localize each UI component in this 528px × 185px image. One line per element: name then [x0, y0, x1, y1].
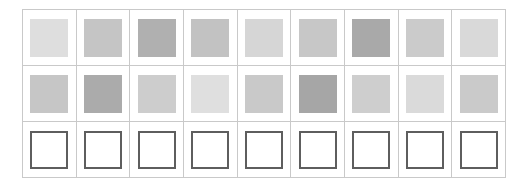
swatch-r2c4[interactable]	[191, 75, 229, 113]
swatch-r2c1[interactable]	[30, 75, 68, 113]
outline-r3c7[interactable]	[352, 131, 390, 169]
grid-cell[interactable]	[23, 122, 77, 178]
grid-cell[interactable]	[237, 66, 291, 122]
grid-cell[interactable]	[130, 66, 184, 122]
grid-cell[interactable]	[23, 66, 77, 122]
swatch-r2c9[interactable]	[460, 75, 498, 113]
row-3-outlined-squares	[23, 122, 506, 178]
grid-cell[interactable]	[183, 66, 237, 122]
grid-cell[interactable]	[130, 122, 184, 178]
outline-r3c2[interactable]	[84, 131, 122, 169]
swatch-r1c3[interactable]	[138, 19, 176, 57]
grid-cell[interactable]	[344, 10, 398, 66]
swatch-r1c5[interactable]	[245, 19, 283, 57]
grid-cell[interactable]	[291, 10, 345, 66]
swatch-grid	[22, 9, 506, 178]
outline-r3c8[interactable]	[406, 131, 444, 169]
grid-cell[interactable]	[183, 122, 237, 178]
grid-cell[interactable]	[452, 122, 506, 178]
outline-r3c6[interactable]	[299, 131, 337, 169]
swatch-r1c8[interactable]	[406, 19, 444, 57]
grid-cell[interactable]	[291, 66, 345, 122]
row-2-gray-swatches	[23, 66, 506, 122]
outline-r3c3[interactable]	[138, 131, 176, 169]
grid-cell[interactable]	[398, 66, 452, 122]
outline-r3c5[interactable]	[245, 131, 283, 169]
grid-cell[interactable]	[76, 10, 130, 66]
grid-cell[interactable]	[398, 10, 452, 66]
grid-cell[interactable]	[76, 66, 130, 122]
row-1-gray-swatches	[23, 10, 506, 66]
swatch-r1c7[interactable]	[352, 19, 390, 57]
grid-cell[interactable]	[130, 10, 184, 66]
grid-cell[interactable]	[291, 122, 345, 178]
swatch-r1c4[interactable]	[191, 19, 229, 57]
swatch-r1c2[interactable]	[84, 19, 122, 57]
swatch-r2c8[interactable]	[406, 75, 444, 113]
swatch-grid-body	[23, 10, 506, 178]
grid-cell[interactable]	[344, 122, 398, 178]
swatch-r2c3[interactable]	[138, 75, 176, 113]
outline-r3c4[interactable]	[191, 131, 229, 169]
grid-cell[interactable]	[452, 66, 506, 122]
grid-cell[interactable]	[452, 10, 506, 66]
grid-cell[interactable]	[398, 122, 452, 178]
outline-r3c9[interactable]	[460, 131, 498, 169]
grid-cell[interactable]	[76, 122, 130, 178]
swatch-r2c2[interactable]	[84, 75, 122, 113]
swatch-r1c6[interactable]	[299, 19, 337, 57]
grid-cell[interactable]	[183, 10, 237, 66]
swatch-r2c5[interactable]	[245, 75, 283, 113]
grid-cell[interactable]	[237, 10, 291, 66]
swatch-r1c1[interactable]	[30, 19, 68, 57]
swatch-r2c7[interactable]	[352, 75, 390, 113]
outline-r3c1[interactable]	[30, 131, 68, 169]
grid-cell[interactable]	[23, 10, 77, 66]
swatch-r2c6[interactable]	[299, 75, 337, 113]
grid-cell[interactable]	[344, 66, 398, 122]
swatch-r1c9[interactable]	[460, 19, 498, 57]
grid-cell[interactable]	[237, 122, 291, 178]
